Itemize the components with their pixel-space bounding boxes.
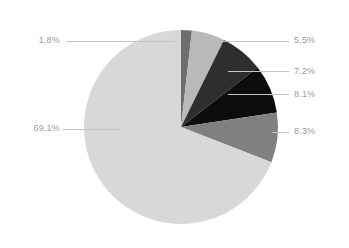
pie-slice-label-7-2: 7.2% (294, 66, 344, 77)
pie-slice-label-1-8: 1.8% (6, 35, 60, 46)
pie-slice-label-69-1: 69.1% (12, 123, 60, 134)
pie-chart-figure: 69.1% 1.8% 5.5% 7.2% 8.1% 8.3% (0, 0, 349, 248)
pie-slice-label-8-1: 8.1% (294, 89, 344, 100)
pie-slice-label-5-5: 5.5% (294, 35, 344, 46)
pie-slice-label-8-3: 8.3% (294, 126, 344, 137)
pie-slice-group (84, 30, 278, 224)
